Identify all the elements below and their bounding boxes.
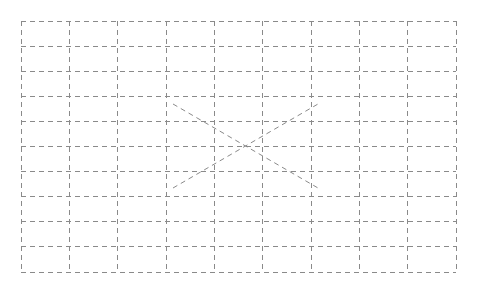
dashed-grid-diagram [0, 0, 478, 292]
diagram-canvas [0, 0, 478, 292]
